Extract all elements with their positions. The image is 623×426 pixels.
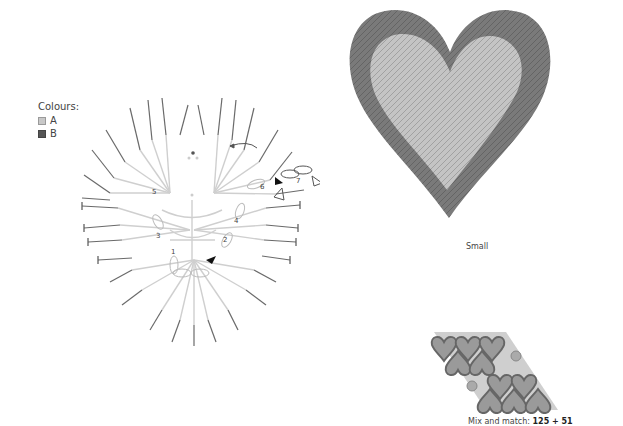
swatch-a-icon [38,117,46,125]
legend-label-a: A [50,114,57,127]
mix-and-match-thumbnail [430,328,560,414]
round-number-4: 4 [234,217,239,225]
round-number-2: 2 [223,236,227,244]
round-number-6: 6 [260,183,265,191]
legend-label-b: B [50,127,57,140]
swatch-b-icon [38,130,46,138]
mix-and-match-value: 125 + 51 [533,417,573,426]
round-number-1: 1 [171,248,175,256]
crochet-chart-diagram: 1 2 3 4 5 6 7 [70,90,320,350]
round-number-3: 3 [156,232,160,240]
round-number-7: 7 [296,177,300,185]
mix-and-match-label: Mix and match: [468,417,530,426]
mix-and-match-caption: Mix and match: 125 + 51 [468,417,573,426]
photo-caption: Small [466,242,488,251]
heart-motif-photo [345,0,555,225]
round-number-5: 5 [152,188,156,196]
